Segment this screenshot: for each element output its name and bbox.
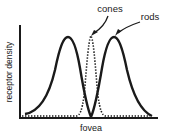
- cones-label: cones: [97, 3, 123, 14]
- receptor-density-diagram: cones rods fovea receptor density: [0, 0, 169, 140]
- arrowhead-icon: [115, 29, 121, 36]
- cones-arrow: [91, 16, 108, 36]
- x-axis-label: fovea: [80, 123, 102, 133]
- rods-label: rods: [141, 11, 160, 22]
- rods-arrow: [115, 22, 140, 36]
- y-axis-label: receptor density: [4, 41, 14, 102]
